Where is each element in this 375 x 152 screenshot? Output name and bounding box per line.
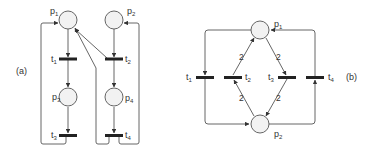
transition-t3 [278,76,296,79]
label-t4: t4 [328,72,335,83]
transitions-b [196,76,324,79]
diagram-b [205,30,315,124]
weight-p2-t2: 2 [239,93,244,103]
label-p1: p1 [50,6,59,17]
label-t3: t3 [51,130,58,141]
label-t3: t3 [268,72,275,83]
places-b [251,21,269,133]
label-p2: p2 [127,6,136,17]
arc-t4-p1 [75,28,109,144]
label-t2: t2 [125,54,132,65]
transition-t1 [59,58,77,61]
arc-t4-p2 [119,23,139,144]
diagram-a-tag: (a) [16,66,27,76]
weight-t3-p2: 2 [276,93,281,103]
place-p1 [251,21,269,39]
place-p2 [105,11,123,29]
label-p4: p4 [125,93,134,104]
transition-t1 [196,76,214,79]
arc-p2-t2 [234,80,254,116]
weight-p1-t3: 2 [276,52,281,62]
place-p1 [59,11,77,29]
label-p1: p1 [274,19,283,30]
diagram-a [41,23,139,144]
label-p2: p2 [274,129,283,140]
label-t1: t1 [186,72,193,83]
weight-t2-p1: 2 [239,52,244,62]
transition-t2 [224,76,242,79]
diagram-b-tag: (b) [346,72,357,82]
label-t4: t4 [125,130,132,141]
arc-p1-t1 [205,30,251,75]
transition-t4 [105,134,123,137]
place-p2 [251,115,269,133]
label-t1: t1 [51,54,58,65]
transition-t2 [105,58,123,61]
transition-t3 [59,134,77,137]
label-t2: t2 [245,72,252,83]
arc-t3-p1 [41,23,66,144]
transition-t4 [306,76,324,79]
arc-t2-p1 [75,29,107,58]
place-p4 [105,88,123,106]
petri-net-figure: p1 p2 p3 p4 t1 t2 t3 t4 (a) p1 p2 t1 [0,0,375,152]
place-p3 [59,88,77,106]
labels-b: p1 p2 t1 t2 t3 t4 2 2 2 2 (b) [186,19,357,140]
